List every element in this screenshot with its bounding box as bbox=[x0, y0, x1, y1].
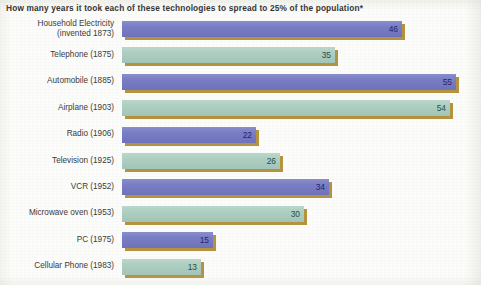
bar: 35 bbox=[122, 47, 335, 63]
bar: 55 bbox=[122, 74, 456, 90]
bar-body bbox=[122, 127, 256, 143]
bar-value-label: 22 bbox=[243, 130, 252, 138]
bar-value-label: 30 bbox=[291, 210, 300, 218]
bar-row: Radio (1906)22 bbox=[0, 127, 481, 143]
bar-category-label: Automobile (1885) bbox=[0, 76, 114, 87]
chart-title: How many years it took each of these tec… bbox=[6, 3, 476, 13]
bar-body bbox=[122, 206, 304, 222]
chart-figure: How many years it took each of these tec… bbox=[0, 0, 481, 285]
bar-value-label: 34 bbox=[316, 183, 325, 191]
bar-row: Airplane (1903)54 bbox=[0, 100, 481, 116]
bar-category-label: Airplane (1903) bbox=[0, 103, 114, 114]
bar-category-label: Television (1925) bbox=[0, 156, 114, 167]
bar-row: Microwave oven (1953)30 bbox=[0, 206, 481, 222]
bar-value-label: 46 bbox=[389, 25, 398, 33]
bar-row: VCR (1952)34 bbox=[0, 179, 481, 195]
bar-body bbox=[122, 47, 335, 63]
bar: 54 bbox=[122, 100, 450, 116]
bar-row: PC (1975)15 bbox=[0, 232, 481, 248]
bar-category-label: PC (1975) bbox=[0, 235, 114, 246]
bar-value-label: 13 bbox=[188, 262, 197, 270]
bar-body bbox=[122, 100, 450, 116]
bar-category-label: Household Electricity (invented 1873) bbox=[0, 19, 114, 40]
bar-row: Telephone (1875)35 bbox=[0, 47, 481, 63]
bar: 13 bbox=[122, 259, 201, 275]
bar-body bbox=[122, 21, 402, 37]
bar-body bbox=[122, 179, 329, 195]
bar: 34 bbox=[122, 179, 329, 195]
bar-row: Television (1925)26 bbox=[0, 153, 481, 169]
bar: 26 bbox=[122, 153, 280, 169]
bar: 46 bbox=[122, 21, 402, 37]
bar-row: Cellular Phone (1983)13 bbox=[0, 259, 481, 275]
bar-category-label: Microwave oven (1953) bbox=[0, 208, 114, 219]
bar: 15 bbox=[122, 232, 213, 248]
bar-body bbox=[122, 153, 280, 169]
bar-row: Automobile (1885)55 bbox=[0, 74, 481, 90]
bar-category-label: VCR (1952) bbox=[0, 182, 114, 193]
bar: 30 bbox=[122, 206, 304, 222]
bar-row: Household Electricity (invented 1873)46 bbox=[0, 21, 481, 37]
bar-value-label: 55 bbox=[443, 78, 452, 86]
bar-category-label: Radio (1906) bbox=[0, 129, 114, 140]
bar-value-label: 54 bbox=[437, 104, 446, 112]
bar: 22 bbox=[122, 127, 256, 143]
bar-value-label: 15 bbox=[200, 236, 209, 244]
bar-category-label: Cellular Phone (1983) bbox=[0, 261, 114, 272]
bar-value-label: 35 bbox=[322, 51, 331, 59]
bar-category-label: Telephone (1875) bbox=[0, 50, 114, 61]
bar-body bbox=[122, 74, 456, 90]
bar-value-label: 26 bbox=[267, 157, 276, 165]
plot-area: Household Electricity (invented 1873)46T… bbox=[0, 18, 481, 282]
